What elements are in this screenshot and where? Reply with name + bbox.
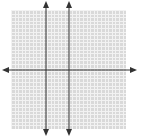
vertical-line-1-up-arrow-icon xyxy=(43,1,49,8)
vertical-line-2-down-arrow-icon xyxy=(66,129,72,136)
vertical-line-2-up-arrow-icon xyxy=(66,1,72,8)
vertical-line-1-down-arrow-icon xyxy=(43,129,49,136)
axes xyxy=(0,0,141,137)
x-axis-right-arrow-icon xyxy=(130,67,137,73)
x-axis-left-arrow-icon xyxy=(2,67,9,73)
